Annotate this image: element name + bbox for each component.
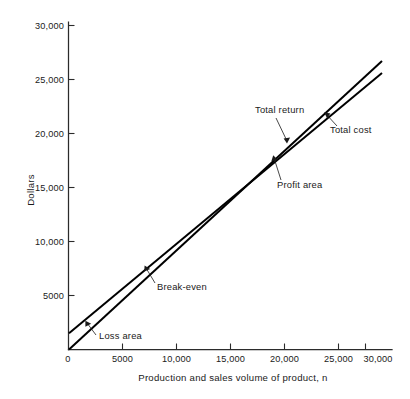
x-axis-title: Production and sales volume of product, … bbox=[138, 372, 327, 383]
y-tick-label-20000: 20,000 bbox=[35, 129, 64, 139]
x-tick-label-20000: 20,000 bbox=[270, 354, 299, 364]
x-tick-label-0: 0 bbox=[65, 354, 70, 364]
x-tick-label-25000: 25,000 bbox=[324, 354, 353, 364]
x-tick-label-30000: 30,000 bbox=[363, 354, 392, 364]
y-tick-label-5000: 5000 bbox=[43, 291, 64, 301]
annotation-loss-area-label: Loss area bbox=[99, 330, 143, 341]
annotation-total-return-label: Total return bbox=[255, 104, 304, 115]
annotation-profit-area-label: Profit area bbox=[277, 179, 323, 190]
x-tick-label-15000: 15,000 bbox=[216, 354, 245, 364]
annotation-break-even-label: Break-even bbox=[157, 281, 207, 292]
x-tick-label-10000: 10,000 bbox=[162, 354, 191, 364]
y-tick-label-30000: 30,000 bbox=[35, 21, 64, 31]
y-tick-label-10000: 10,000 bbox=[35, 237, 64, 247]
y-axis-title: Dollars bbox=[25, 174, 36, 206]
chart-canvas: 30,000 25,000 20,000 15,000 10,000 5000 … bbox=[0, 0, 410, 399]
x-tick-label-5000: 5000 bbox=[112, 354, 133, 364]
y-tick-label-25000: 25,000 bbox=[35, 75, 64, 85]
breakeven-chart-figure: 30,000 25,000 20,000 15,000 10,000 5000 … bbox=[0, 0, 410, 399]
y-tick-label-15000: 15,000 bbox=[35, 183, 64, 193]
chart-background bbox=[0, 0, 410, 399]
